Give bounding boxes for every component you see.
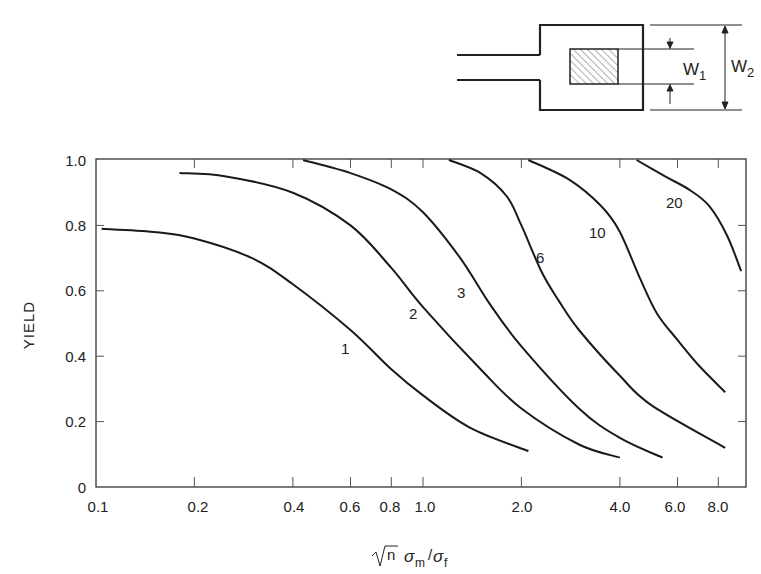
y-tick-labels: 0 0.2 0.4 0.6 0.8 1.0 — [65, 152, 86, 496]
curve-3 — [303, 160, 662, 458]
svg-text:0.1: 0.1 — [88, 498, 109, 515]
curve-label-20: 20 — [666, 194, 683, 211]
svg-text:6.0: 6.0 — [665, 498, 686, 515]
x-axis — [194, 159, 718, 487]
svg-text:0: 0 — [78, 479, 86, 496]
curve-label-2: 2 — [409, 305, 417, 322]
curve-2 — [180, 173, 620, 458]
svg-text:σ: σ — [404, 547, 415, 566]
svg-text:2.0: 2.0 — [512, 498, 533, 515]
svg-text:0.4: 0.4 — [65, 348, 86, 365]
svg-text:m: m — [415, 556, 425, 570]
svg-text:0.6: 0.6 — [340, 498, 361, 515]
svg-text:0.4: 0.4 — [284, 498, 305, 515]
svg-text:0.6: 0.6 — [65, 282, 86, 299]
svg-text:8.0: 8.0 — [708, 498, 729, 515]
curve-label-6: 6 — [536, 249, 544, 266]
curve-20 — [637, 160, 742, 271]
w2-label: W2 — [731, 57, 754, 80]
svg-text:1.0: 1.0 — [65, 152, 86, 169]
y-axis — [96, 225, 746, 421]
yield-chart: W1 W2 0 0.2 0.4 0.6 0.8 1.0 YIELD — [0, 0, 761, 574]
svg-text:0.2: 0.2 — [188, 498, 209, 515]
svg-text:0.2: 0.2 — [65, 413, 86, 430]
curve-1 — [102, 229, 529, 451]
curve-label-1: 1 — [341, 340, 349, 357]
curve-label-3: 3 — [457, 284, 465, 301]
svg-text:0.8: 0.8 — [65, 217, 86, 234]
svg-text:4.0: 4.0 — [610, 498, 631, 515]
x-tick-labels: 0.1 0.2 0.4 0.6 0.8 1.0 2.0 4.0 6.0 8.0 — [88, 498, 729, 515]
curve-labels: 1 2 3 6 10 20 — [341, 194, 683, 357]
svg-text:1.0: 1.0 — [415, 498, 436, 515]
svg-text:0.8: 0.8 — [380, 498, 401, 515]
y-axis-label: YIELD — [20, 301, 37, 349]
svg-text:f: f — [444, 556, 448, 570]
yield-curves — [102, 160, 742, 458]
svg-text:σ: σ — [433, 547, 444, 566]
svg-text:n: n — [387, 546, 395, 563]
curve-label-10: 10 — [589, 224, 606, 241]
x-axis-label: n σ m / σ f — [372, 546, 448, 570]
plot-frame — [96, 159, 746, 487]
w1-label: W1 — [683, 60, 706, 83]
